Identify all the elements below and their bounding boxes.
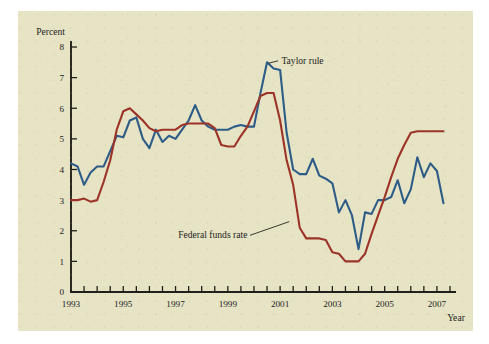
y-tick-label-6: 6 <box>59 104 64 114</box>
x-tick-label-1999: 1999 <box>219 299 238 309</box>
y-tick-label-2: 2 <box>59 226 64 236</box>
taylor-rule-label: Taylor rule <box>281 55 323 66</box>
series-line-taylor-rule <box>71 62 443 249</box>
x-tick-label-2005: 2005 <box>375 299 394 309</box>
series-line-federal-funds-rate <box>71 93 443 261</box>
x-axis-title: Year <box>447 312 465 323</box>
y-tick-label-0: 0 <box>59 287 64 297</box>
x-tick-label-2007: 2007 <box>428 299 447 309</box>
y-tick-label-1: 1 <box>59 257 64 267</box>
y-axis-title: Percent <box>36 26 65 37</box>
taylor-rule-chart: 0123456781993199519971999200120032005200… <box>18 11 473 331</box>
series-group <box>71 62 443 261</box>
federal-funds-rate-label: Federal funds rate <box>178 229 247 240</box>
figure-panel: 0123456781993199519971999200120032005200… <box>18 11 473 331</box>
annotation-group: Taylor ruleFederal funds rate <box>178 55 323 241</box>
x-tick-label-1995: 1995 <box>114 299 133 309</box>
x-tick-label-1993: 1993 <box>62 299 81 309</box>
x-tick-label-1997: 1997 <box>166 299 185 309</box>
y-tick-label-4: 4 <box>59 165 64 175</box>
axis-group: 0123456781993199519971999200120032005200… <box>36 26 465 323</box>
x-tick-label-2001: 2001 <box>271 299 290 309</box>
y-tick-label-7: 7 <box>59 73 64 83</box>
x-tick-label-2003: 2003 <box>323 299 342 309</box>
taylor-rule-label-leader <box>268 61 278 64</box>
chart-plot-area: 0123456781993199519971999200120032005200… <box>18 11 473 331</box>
federal-funds-rate-label-leader <box>250 222 289 236</box>
y-tick-label-8: 8 <box>59 42 64 52</box>
y-tick-label-5: 5 <box>59 134 64 144</box>
y-tick-label-3: 3 <box>59 196 64 206</box>
